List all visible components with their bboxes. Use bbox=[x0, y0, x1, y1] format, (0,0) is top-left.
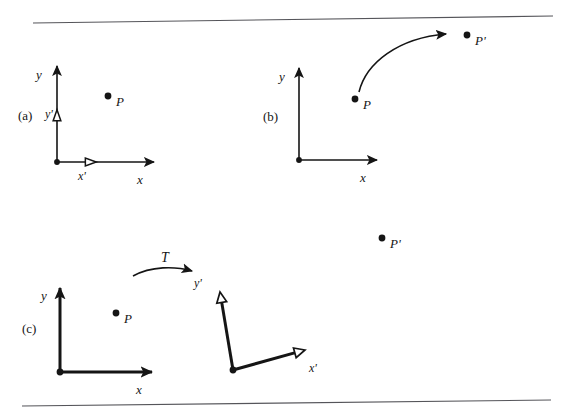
panel-a-y-prime-arrowhead bbox=[53, 110, 61, 121]
panel-a-axis-label-y: y bbox=[36, 68, 42, 81]
panel-b-point-P-prime-label: P' bbox=[475, 34, 486, 47]
panel-a-point-P-label: P bbox=[116, 95, 124, 108]
panel-c-rotated-origin-dot bbox=[230, 367, 237, 374]
figure-vector-layer bbox=[0, 0, 573, 415]
panel-a-origin-dot bbox=[54, 159, 60, 165]
bottom-rule bbox=[22, 400, 551, 406]
top-rule bbox=[33, 16, 553, 23]
panel-c-transform-label: T bbox=[161, 251, 169, 265]
panel-a-x-prime-label: x' bbox=[78, 170, 86, 182]
panel-a-axis-label-x: x bbox=[137, 173, 143, 186]
panel-a-label: (a) bbox=[18, 109, 32, 122]
panel-a-x-prime-arrowhead bbox=[85, 158, 96, 166]
panel-c-point-P-dot bbox=[113, 310, 120, 317]
panel-c-point-P-label: P bbox=[124, 312, 132, 325]
panel-b-axis-label-y: y bbox=[279, 70, 285, 83]
panel-b-curved-motion-arrow bbox=[359, 34, 446, 92]
panel-c-x-prime-axis bbox=[233, 352, 296, 370]
panel-c-x-prime-label: x' bbox=[309, 362, 317, 374]
panel-a-y-prime-label: y' bbox=[45, 108, 53, 120]
panel-c-y-prime-arrowhead bbox=[217, 292, 227, 303]
panel-c-axis-label-y: y bbox=[41, 289, 47, 302]
panel-c-axis-label-x: x bbox=[136, 383, 142, 396]
panel-b-label: (b) bbox=[263, 110, 278, 123]
panel-c-y-prime-label: y' bbox=[194, 277, 202, 289]
standalone-point-P-prime-dot bbox=[379, 235, 386, 242]
panel-a-point-P-dot bbox=[105, 93, 112, 100]
panel-c-label: (c) bbox=[22, 322, 36, 335]
panel-c-transform-arrow-T bbox=[133, 268, 192, 276]
panel-b-point-P-dot bbox=[352, 96, 359, 103]
figure-canvas: (a)yxy'x'P(b)yxPP'(c)yxPTy'x'P' bbox=[0, 0, 573, 415]
panel-c-x-prime-arrowhead bbox=[293, 348, 305, 358]
standalone-point-P-prime-label: P' bbox=[390, 237, 401, 250]
panel-c-y-prime-axis bbox=[221, 301, 233, 370]
panel-b-origin-dot bbox=[296, 157, 302, 163]
panel-c-origin-dot bbox=[57, 369, 64, 376]
panel-b-point-P-prime-dot bbox=[464, 32, 471, 39]
panel-b-point-P-label: P bbox=[363, 98, 371, 111]
panel-b-axis-label-x: x bbox=[360, 171, 366, 184]
